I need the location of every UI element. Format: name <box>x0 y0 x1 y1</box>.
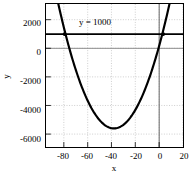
y-axis-title: y <box>2 67 11 87</box>
ytick-label-1: 0 <box>0 48 41 57</box>
right-intersection-marker <box>161 32 165 36</box>
parabola-curve <box>46 4 183 128</box>
xtick-label-5: 20 <box>170 152 196 161</box>
plot-canvas <box>46 4 183 147</box>
xtick-label-2: -40 <box>97 152 125 161</box>
ytick-label-4: -6000 <box>0 135 41 144</box>
chart-figure: 2000 0 -2000 -4000 -6000 y <box>0 0 196 176</box>
tick-marks <box>46 20 159 147</box>
x-axis-title: x <box>100 164 128 173</box>
ytick-label-0: 2000 <box>0 19 41 28</box>
left-intersection-marker <box>63 32 67 36</box>
y-equals-1000-annotation: y = 1000 <box>79 18 111 27</box>
plot-area: y = 1000 <box>45 3 184 148</box>
ytick-label-3: -4000 <box>0 106 41 115</box>
